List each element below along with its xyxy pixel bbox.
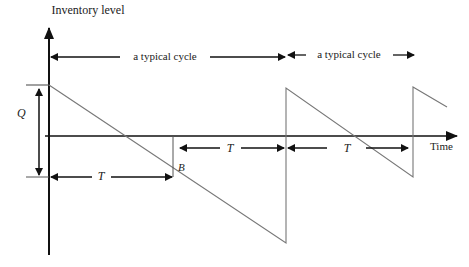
cycle-label-1: a typical cycle	[133, 50, 197, 62]
b-label: B	[178, 161, 185, 173]
inventory-curve	[26, 85, 447, 243]
x-axis-label: Time	[430, 140, 453, 152]
period-label-3: T	[344, 141, 352, 155]
inventory-diagram: Inventory level Time Q B a typical cycle…	[0, 0, 469, 267]
period-label-1: T	[98, 169, 106, 183]
period-label-2: T	[227, 141, 235, 155]
q-bracket	[26, 89, 49, 177]
q-label: Q	[17, 106, 26, 120]
cycle-label-2: a typical cycle	[317, 48, 381, 60]
y-axis-label: Inventory level	[52, 3, 126, 17]
